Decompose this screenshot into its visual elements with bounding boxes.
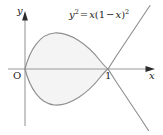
equation-equals: = [79, 9, 89, 20]
equation-annotation: y2=x(1−x)2 [69, 9, 129, 20]
plot-canvas [0, 0, 163, 135]
y-axis-label: y [17, 6, 23, 16]
figure-container: y x O 1 y2=x(1−x)2 [0, 0, 163, 135]
equation-rhs-exponent: 2 [125, 8, 129, 16]
equation-rhs-minus: − [105, 9, 115, 20]
x-axis-label: x [149, 71, 155, 81]
equation-rhs-open: (1 [95, 9, 105, 20]
origin-label: O [13, 71, 21, 81]
x-tick-label-1: 1 [105, 71, 111, 81]
